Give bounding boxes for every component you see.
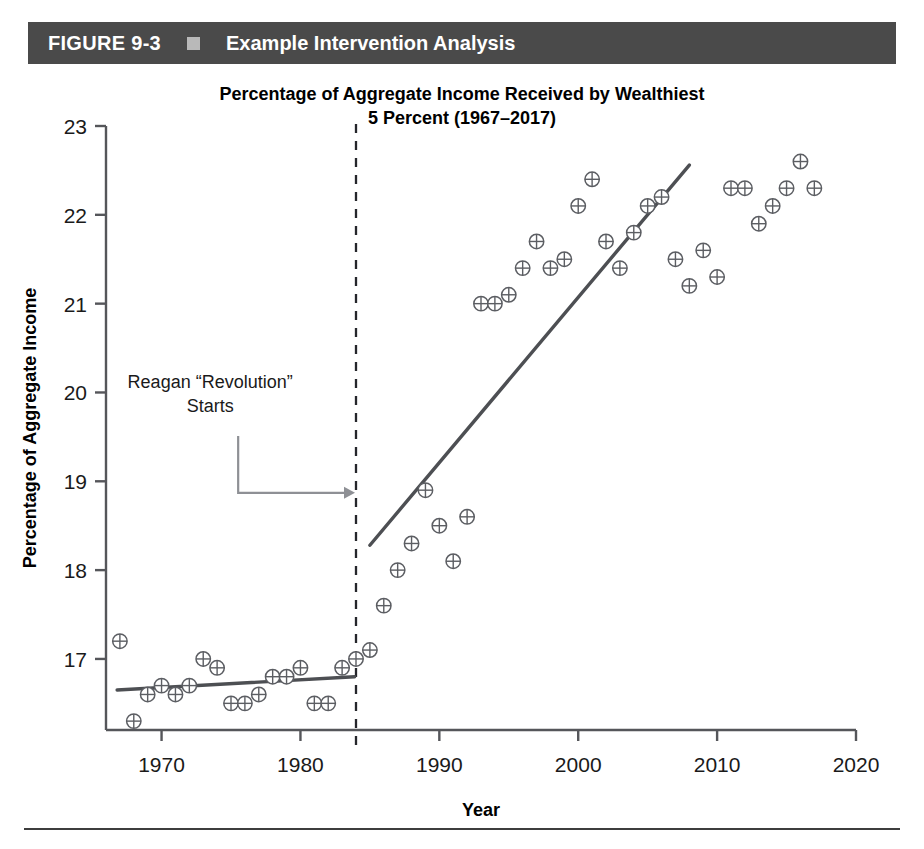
data-point <box>140 687 154 701</box>
data-point <box>654 190 668 204</box>
data-point <box>265 670 279 684</box>
figure-number-label: FIGURE 9-3 <box>48 32 161 55</box>
data-point <box>557 252 571 266</box>
y-axis-ticks: 17181920212223 <box>64 115 106 671</box>
y-tick-label: 20 <box>64 381 87 404</box>
data-point <box>488 296 502 310</box>
intervention-analysis-scatter-chart: Percentage of Aggregate Income Received … <box>0 64 924 824</box>
data-point <box>724 181 738 195</box>
annotation-text-line-2: Starts <box>187 396 234 416</box>
y-tick-label: 18 <box>64 559 87 582</box>
x-tick-label: 1970 <box>138 753 185 776</box>
data-point <box>238 696 252 710</box>
y-tick-label: 22 <box>64 204 87 227</box>
data-point <box>432 519 446 533</box>
intervention-annotation: Reagan “Revolution” Starts <box>128 372 355 499</box>
x-tick-label: 1990 <box>416 753 463 776</box>
x-tick-label: 2000 <box>555 753 602 776</box>
chart-title-line-1: Percentage of Aggregate Income Received … <box>219 84 704 104</box>
data-point <box>390 563 404 577</box>
data-point <box>154 678 168 692</box>
data-point <box>418 483 432 497</box>
data-point <box>404 536 418 550</box>
x-tick-label: 1980 <box>277 753 324 776</box>
axes <box>106 126 856 730</box>
data-point <box>793 154 807 168</box>
data-point <box>321 696 335 710</box>
data-point <box>113 634 127 648</box>
data-point <box>640 199 654 213</box>
data-point <box>252 687 266 701</box>
data-point <box>335 661 349 675</box>
data-point <box>363 643 377 657</box>
y-tick-label: 17 <box>64 648 87 671</box>
chart-container: Percentage of Aggregate Income Received … <box>0 64 924 824</box>
annotation-text-line-1: Reagan “Revolution” <box>128 372 293 392</box>
data-point <box>502 288 516 302</box>
y-tick-label: 19 <box>64 470 87 493</box>
chart-title-line-2: 5 Percent (1967–2017) <box>368 108 556 128</box>
data-point <box>224 696 238 710</box>
data-point <box>807 181 821 195</box>
data-point <box>168 687 182 701</box>
data-point <box>543 261 557 275</box>
x-axis-ticks: 197019801990200020102020 <box>138 730 879 776</box>
square-bullet-icon <box>187 37 200 50</box>
data-point <box>752 217 766 231</box>
data-point <box>696 243 710 257</box>
data-point <box>196 652 210 666</box>
annotation-arrowhead-icon <box>344 487 355 499</box>
data-point <box>349 652 363 666</box>
figure-banner: FIGURE 9-3 Example Intervention Analysis <box>28 22 896 64</box>
data-point <box>293 661 307 675</box>
figure-title: Example Intervention Analysis <box>226 32 515 55</box>
data-point <box>377 598 391 612</box>
x-tick-label: 2020 <box>833 753 880 776</box>
data-point <box>613 261 627 275</box>
x-tick-label: 2010 <box>694 753 741 776</box>
annotation-elbow-arrow <box>238 436 346 493</box>
y-axis-title: Percentage of Aggregate Income <box>20 288 40 568</box>
data-point <box>182 678 196 692</box>
data-point <box>738 181 752 195</box>
data-point <box>571 199 585 213</box>
data-point <box>529 234 543 248</box>
data-point <box>515 261 529 275</box>
data-point <box>585 172 599 186</box>
data-point <box>127 714 141 728</box>
data-point <box>279 670 293 684</box>
y-tick-label: 21 <box>64 293 87 316</box>
data-points <box>113 154 822 728</box>
x-axis-title: Year <box>462 800 500 820</box>
data-point <box>627 225 641 239</box>
data-point <box>210 661 224 675</box>
data-point <box>307 696 321 710</box>
data-point <box>460 510 474 524</box>
data-point <box>474 296 488 310</box>
data-point <box>710 270 724 284</box>
bottom-divider <box>24 828 900 830</box>
data-point <box>765 199 779 213</box>
data-point <box>779 181 793 195</box>
data-point <box>668 252 682 266</box>
data-point <box>446 554 460 568</box>
data-point <box>599 234 613 248</box>
pre-intervention-trend <box>117 677 355 690</box>
data-point <box>682 279 696 293</box>
y-tick-label: 23 <box>64 115 87 138</box>
